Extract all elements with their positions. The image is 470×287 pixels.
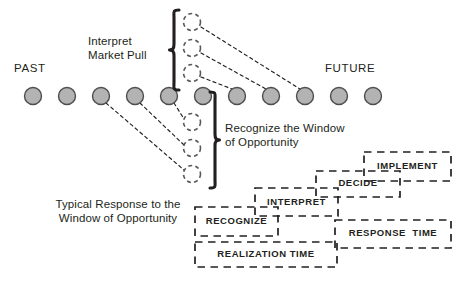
ghost-node — [184, 114, 201, 131]
ghost-node — [184, 14, 201, 31]
projection-line — [201, 27, 300, 89]
projection-line — [201, 53, 266, 89]
era-label-future: FUTURE — [325, 62, 375, 76]
diagram-canvas: PAST FUTURE Interpret Market Pull Recogn… — [0, 0, 470, 287]
ghost-node — [184, 166, 201, 183]
phase-label-response-time: RESPONSE TIME — [335, 227, 451, 238]
phase-label-recognize: RECOGNIZE — [195, 215, 278, 226]
projection-line — [106, 103, 184, 170]
ghost-node — [184, 140, 201, 157]
timeline-node — [127, 88, 144, 105]
timeline-node — [59, 88, 76, 105]
annotation-recognize-window: Recognize the Window of Opportunity — [225, 122, 355, 149]
timeline-node — [93, 88, 110, 105]
brace-recognize-window — [210, 92, 220, 188]
timeline-node — [25, 88, 42, 105]
timeline-node — [263, 88, 280, 105]
era-label-past: PAST — [14, 62, 46, 76]
annotation-typical-response: Typical Response to the Window of Opport… — [42, 198, 194, 225]
ghost-node — [184, 40, 201, 57]
phase-label-interpret: INTERPRET — [255, 196, 338, 207]
phase-label-decide: DECIDE — [316, 177, 400, 188]
ghost-node — [184, 65, 201, 82]
timeline-node — [297, 88, 314, 105]
timeline-node — [365, 88, 382, 105]
phase-label-implement: IMPLEMENT — [364, 160, 451, 171]
timeline-node — [195, 88, 212, 105]
annotation-interpret-market-pull: Interpret Market Pull — [88, 35, 174, 62]
timeline-node — [331, 88, 348, 105]
timeline-node — [229, 88, 246, 105]
phase-label-realization-time: REALIZATION TIME — [195, 248, 337, 259]
ghost-nodes-below — [184, 114, 201, 183]
ghost-nodes-above — [184, 14, 201, 82]
projection-line — [174, 103, 184, 119]
timeline-nodes — [25, 88, 382, 105]
